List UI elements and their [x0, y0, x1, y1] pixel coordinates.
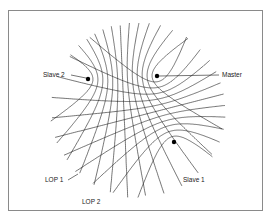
- station-dot-master: [155, 74, 159, 78]
- leader-line-slave2: [71, 75, 86, 78]
- line-of-position: [70, 50, 200, 88]
- line-of-position: [142, 25, 198, 173]
- line-of-position: [138, 136, 213, 197]
- line-of-position: [110, 26, 118, 192]
- station-dot-slave2: [86, 77, 90, 81]
- line-of-position: [132, 23, 164, 193]
- line-of-position: [93, 124, 224, 184]
- label-slave-2: Slave 2: [43, 72, 65, 79]
- label-lop-1: LOP 1: [45, 177, 63, 184]
- line-of-position: [55, 94, 224, 137]
- line-of-position: [52, 83, 221, 118]
- line-of-position: [80, 34, 108, 173]
- leader-line-lop1: [68, 174, 78, 180]
- hyperbola-diagram: [0, 0, 273, 221]
- label-slave-1: Slave 1: [183, 177, 205, 184]
- label-master: Master: [222, 72, 242, 79]
- label-lop-2: LOP 2: [82, 199, 100, 206]
- line-of-position: [120, 26, 128, 198]
- station-dot-slave1: [172, 140, 176, 144]
